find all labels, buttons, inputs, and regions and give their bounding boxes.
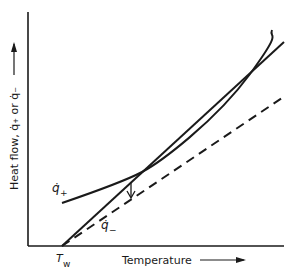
origin-tw-label: T w xyxy=(56,252,70,269)
svg-text:q̇: q̇ xyxy=(101,218,109,232)
svg-text:+: + xyxy=(60,188,68,198)
q-minus-label: q̇ − xyxy=(101,218,117,235)
svg-text:w: w xyxy=(63,259,70,269)
heat-flow-diagram: q̇ + q̇ − T w Temperature Heat flow, q̇₊… xyxy=(0,0,296,274)
y-axis-label: Heat flow, q̇₊ or q̇₋ xyxy=(8,87,21,190)
q-minus-dashed-line xyxy=(62,98,282,246)
y-axis-arrow-icon xyxy=(11,42,17,52)
svg-text:−: − xyxy=(109,225,117,235)
x-axis-label: Temperature xyxy=(121,254,192,267)
x-axis-arrow-icon xyxy=(236,257,246,263)
q-plus-curve xyxy=(62,30,273,203)
svg-text:q̇: q̇ xyxy=(52,181,60,195)
q-plus-label: q̇ + xyxy=(52,181,68,198)
